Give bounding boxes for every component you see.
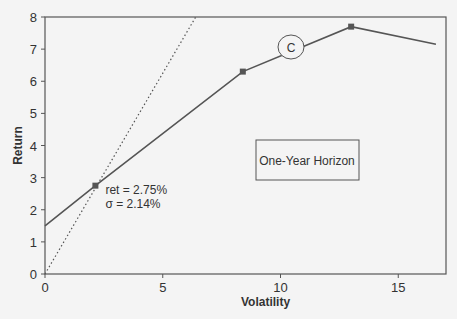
y-tick-label: 8 [30,10,37,25]
data-marker [240,69,246,75]
y-tick-label: 1 [30,235,37,250]
y-tick-label: 5 [30,106,37,121]
point-c-label: C [287,41,296,55]
tangency-sigma-label: σ = 2.14% [105,197,160,211]
y-tick-label: 0 [30,267,37,282]
y-tick-label: 3 [30,171,37,186]
y-tick-label: 4 [30,139,37,154]
chart: 012345678051015VolatilityReturnret = 2.7… [0,0,457,319]
plot-frame [45,17,446,274]
x-tick-label: 10 [273,280,287,295]
x-tick-label: 5 [159,280,166,295]
y-tick-label: 6 [30,74,37,89]
tangency-return-label: ret = 2.75% [105,183,167,197]
x-tick-label: 15 [391,280,405,295]
horizon-label: One-Year Horizon [259,154,355,168]
tangent-line [45,17,196,274]
x-axis-label: Volatility [241,295,290,309]
y-axis-label: Return [11,126,25,165]
y-tick-label: 2 [30,203,37,218]
y-tick-label: 7 [30,42,37,57]
data-marker [348,24,354,30]
frontier-line [45,27,436,226]
x-tick-label: 0 [41,280,48,295]
